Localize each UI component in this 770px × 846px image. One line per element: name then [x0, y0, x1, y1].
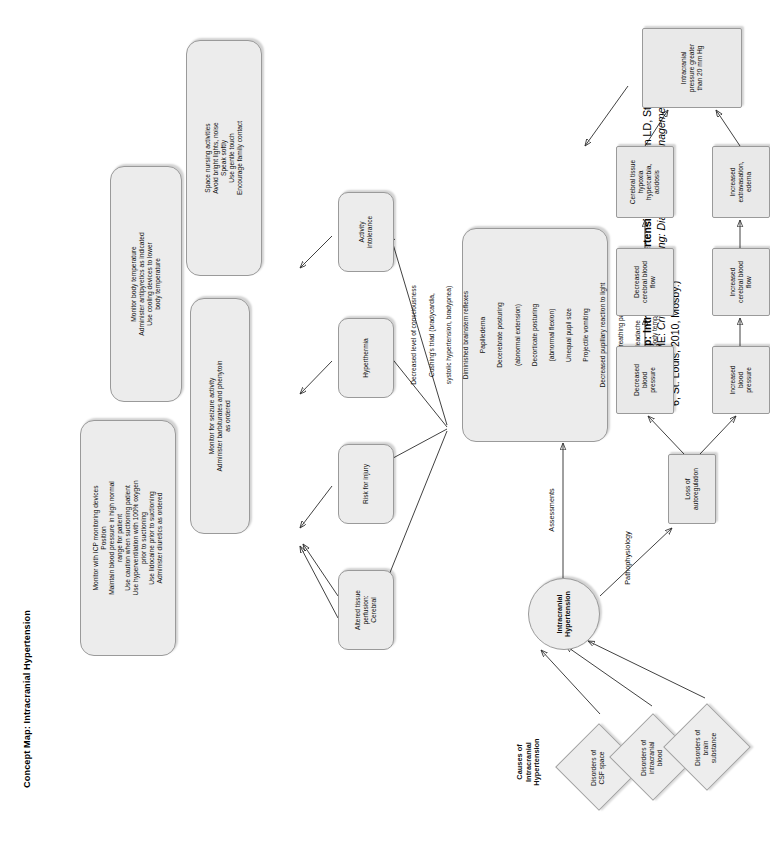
assessment-item: Decreased pupillary reaction to light	[599, 283, 608, 388]
assessment-item: Decerebrate posturing	[496, 283, 505, 388]
patho-upper-step-2: Decreased cerebral blood flow	[616, 248, 674, 316]
pathophysiology-edge-label: Pathophysiology	[624, 516, 633, 600]
assessment-item: systolic hypertension, bradypnea)	[445, 283, 454, 388]
patho-upper-3-label: Cerebral tissue hypoxia hypercarbia, aci…	[629, 157, 661, 207]
patho-lower-3-label: Increased extravasation, edema	[729, 158, 753, 205]
patho-root-label: Loss of autoregulation	[684, 465, 700, 513]
patho-upper-2-label: Decreased cerebral blood flow	[633, 258, 657, 306]
central-node-intracranial-hypertension: Intracranial Hypertension	[528, 578, 600, 650]
patho-lower-step-3: Increased extravasation, edema	[712, 146, 770, 218]
patho-root-loss-of-autoregulation: Loss of autoregulation	[668, 454, 716, 524]
cause-diamond-3-label: Disorders of brain substance	[664, 706, 748, 790]
nursing-diagnosis-box-1: Altered tissue perfusion: Cerebral	[338, 570, 394, 650]
assessments-edge-label: Assessments	[548, 470, 557, 550]
nursing-diagnosis-box-2: Risk for injury	[338, 444, 394, 524]
assessment-item: Projectile vomiting	[582, 283, 591, 388]
intervention-box-1: Monitor with ICP monitoring devices Posi…	[80, 420, 176, 656]
patho-upper-step-1: Decreased blood pressure	[616, 346, 674, 414]
assessment-item: (abnormal extension)	[514, 283, 523, 388]
assessment-findings-box: Decreased level of consciousness Cushing…	[462, 228, 608, 442]
patho-upper-step-3: Cerebral tissue hypoxia hypercarbia, aci…	[616, 146, 674, 218]
assessment-item: Diminished brainstem reflexes	[462, 283, 471, 388]
intervention-4-text: Space nursing activities Avoid bright li…	[204, 118, 244, 198]
nursing-diagnosis-1-label: Altered tissue perfusion: Cerebral	[354, 587, 378, 633]
nursing-diagnosis-3-label: Hyperthermia	[362, 335, 370, 381]
intervention-3-text: Monitor body temperature Administer anti…	[130, 229, 162, 338]
patho-lower-step-2: Increased cerebral blood flow	[712, 248, 770, 316]
patho-upper-1-label: Decreased blood pressure	[633, 361, 657, 399]
patho-lower-2-label: Increased cerebral blood flow	[729, 258, 753, 306]
assessment-item: Decreased level of consciousness	[410, 283, 419, 388]
patho-lower-1-label: Increased blood pressure	[729, 363, 753, 398]
intervention-1-text: Monitor with ICP monitoring devices Posi…	[92, 477, 164, 598]
intervention-box-4: Space nursing activities Avoid bright li…	[186, 40, 262, 276]
patho-lower-step-1: Increased blood pressure	[712, 346, 770, 414]
intervention-2-text: Monitor for seizure activity Administer …	[208, 357, 232, 474]
assessment-item: Cushing's triad (bradycardia,	[428, 283, 437, 388]
patho-outcome-label: Intracranial pressure greater than 20 mm…	[680, 41, 704, 95]
patho-outcome-box: Intracranial pressure greater than 20 mm…	[642, 28, 742, 108]
assessment-item: Decorticate posturing	[531, 283, 540, 388]
assessment-item: Unequal pupil size	[565, 283, 574, 388]
nursing-diagnosis-box-3: Hyperthermia	[338, 318, 394, 398]
intervention-box-3: Monitor body temperature Administer anti…	[110, 166, 182, 402]
central-node-label: Intracranial Hypertension	[556, 588, 573, 640]
causes-group-label: Causes of Intracranial Hypertension	[516, 714, 542, 810]
nursing-diagnosis-2-label: Risk for injury	[362, 461, 370, 507]
cause-diamond-3: Disorders of brain substance	[664, 706, 748, 790]
intervention-box-2: Monitor for seizure activity Administer …	[190, 298, 250, 534]
figure-title: Concept Map: Intracranial Hypertension	[22, 610, 32, 788]
nursing-diagnosis-box-4: Activity intolerance	[338, 192, 394, 272]
nursing-diagnosis-4-label: Activity intolerance	[358, 213, 374, 251]
assessment-item: (abnormal flexion)	[548, 283, 557, 388]
assessment-item: Papilledema	[479, 283, 488, 388]
